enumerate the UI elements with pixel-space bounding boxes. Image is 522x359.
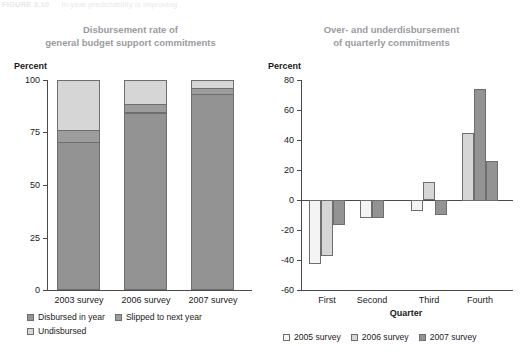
bar-first-2005: [309, 200, 321, 264]
legend-label-undisbursed: Undisbursed: [38, 326, 86, 336]
legend-item-slipped-to-next-year[interactable]: Slipped to next year: [115, 312, 202, 322]
left-legend-row-2: Undisbursed: [27, 326, 212, 336]
right-xtick-label-fourth: Fourth: [450, 295, 510, 305]
bar-fourth-2006: [474, 89, 486, 201]
right-ytick-label-0: 0: [268, 196, 294, 205]
legend-swatch-icon-2006: [351, 334, 358, 341]
bar-second-2005: [360, 200, 372, 218]
left-ytick-mark-75: [43, 132, 47, 133]
bar-2003-undisbursed: [57, 80, 100, 131]
bar-first-2006: [321, 200, 333, 256]
bar-2006-slipped: [124, 104, 167, 113]
legend-label-2007: 2007 survey: [430, 332, 477, 342]
legend-label-disbursed: Disbursed in year: [38, 312, 105, 322]
bar-2003-disbursed: [57, 142, 100, 290]
right-ytick-mark-0: [297, 200, 301, 201]
legend-swatch-icon-2007: [419, 334, 426, 341]
right-ytick-mark-80: [297, 80, 301, 81]
right-ytick-mark-40: [297, 140, 301, 141]
left-ytick-mark-0: [43, 290, 47, 291]
right-y-axis-line: [301, 80, 302, 291]
right-ytick-mark-neg20: [297, 230, 301, 231]
legend-swatch-icon-slipped: [115, 314, 122, 321]
right-ytick-label-20: 20: [268, 166, 294, 175]
bar-fourth-2007: [486, 161, 498, 201]
legend-label-slipped: Slipped to next year: [126, 312, 202, 322]
left-ytick-mark-100: [43, 80, 47, 81]
bar-2006-undisbursed: [124, 80, 167, 105]
figure-number: FIGURE 3.10: [2, 0, 49, 9]
bar-third-2006: [423, 182, 435, 200]
bar-second-2006: [372, 200, 384, 218]
legend-label-2005: 2005 survey: [294, 332, 341, 342]
legend-swatch-icon-disbursed: [27, 314, 34, 321]
right-ytick-label-neg20: -20: [268, 226, 294, 235]
left-ytick-label-0: 0: [14, 286, 40, 295]
right-ytick-label-60: 60: [268, 106, 294, 115]
right-ytick-label-neg40: -40: [268, 256, 294, 265]
right-chart-legend: 2005 survey 2006 survey 2007 survey: [283, 332, 486, 342]
left-x-axis-line: [47, 290, 252, 291]
right-chart-panel: Over- and underdisbursement of quarterly…: [261, 14, 522, 359]
legend-item-undisbursed[interactable]: Undisbursed: [27, 326, 86, 336]
left-chart-panel: Disbursement rate of general budget supp…: [0, 14, 261, 359]
bar-third-2007: [435, 200, 447, 215]
right-ytick-mark-60: [297, 110, 301, 111]
right-ytick-mark-20: [297, 170, 301, 171]
legend-item-2006-survey[interactable]: 2006 survey: [351, 332, 409, 342]
left-legend-row-1: Disbursed in year Slipped to next year: [27, 312, 212, 322]
right-plot-area: 80 60 40 20 0 -20 -40 -60 First Second T…: [261, 14, 522, 359]
left-plot-area: 100 75 50 25 0 2003 survey 2006 survey 2…: [0, 14, 261, 359]
right-ytick-mark-neg60: [297, 290, 301, 291]
left-ytick-label-50: 50: [14, 181, 40, 190]
bar-first-2007: [333, 200, 345, 225]
bar-third-2005: [411, 200, 423, 211]
legend-swatch-icon-undisbursed: [27, 328, 34, 335]
right-ytick-mark-neg40: [297, 260, 301, 261]
right-x-axis-title: Quarter: [361, 308, 451, 318]
left-y-axis-line: [47, 80, 48, 291]
right-legend-row-1: 2005 survey 2006 survey 2007 survey: [283, 332, 486, 342]
left-ytick-mark-25: [43, 238, 47, 239]
left-xtick-label-2006: 2006 survey: [111, 295, 181, 305]
right-ytick-label-40: 40: [268, 136, 294, 145]
left-ytick-label-25: 25: [14, 234, 40, 243]
figure-caption: In-year predictability is improving: [61, 0, 177, 9]
bar-2006-disbursed: [124, 113, 167, 290]
right-ytick-label-80: 80: [268, 76, 294, 85]
legend-label-2006: 2006 survey: [362, 332, 409, 342]
legend-item-disbursed-in-year[interactable]: Disbursed in year: [27, 312, 105, 322]
legend-item-2007-survey[interactable]: 2007 survey: [419, 332, 477, 342]
left-xtick-label-2007: 2007 survey: [178, 295, 248, 305]
left-xtick-label-2003: 2003 survey: [44, 295, 114, 305]
bar-2007-disbursed: [191, 94, 234, 290]
left-ytick-mark-50: [43, 185, 47, 186]
legend-swatch-icon-2005: [283, 334, 290, 341]
bar-fourth-2005: [462, 133, 474, 201]
legend-item-2005-survey[interactable]: 2005 survey: [283, 332, 341, 342]
right-ytick-label-neg60: -60: [268, 286, 294, 295]
right-xtick-label-second: Second: [342, 295, 402, 305]
figure-header: FIGURE 3.10In-year predictability is imp…: [0, 0, 522, 12]
left-ytick-label-75: 75: [14, 128, 40, 137]
left-chart-legend: Disbursed in year Slipped to next year U…: [27, 312, 212, 336]
right-x-axis-line: [301, 290, 513, 291]
left-ytick-label-100: 100: [14, 76, 40, 85]
